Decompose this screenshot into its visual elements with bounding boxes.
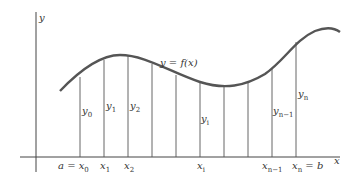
svg-text:x1: x1 xyxy=(100,160,110,174)
svg-text:xn = b: xn = b xyxy=(292,160,323,174)
svg-text:a = x0: a = x0 xyxy=(58,160,89,174)
svg-text:xi: xi xyxy=(197,160,206,174)
svg-text:y2: y2 xyxy=(129,100,140,114)
svg-text:y1: y1 xyxy=(105,100,116,114)
x-axis-label: x xyxy=(334,155,340,166)
svg-text:yn: yn xyxy=(297,88,309,102)
svg-text:xn−1: xn−1 xyxy=(262,160,282,174)
svg-text:yn−1: yn−1 xyxy=(272,105,293,119)
curve-f-of-x xyxy=(60,28,340,91)
svg-text:y0: y0 xyxy=(81,105,92,119)
svg-text:yi: yi xyxy=(200,113,210,127)
svg-text:x2: x2 xyxy=(124,160,134,174)
riemann-partition-diagram: y x y = f(x) y0 y1 y2 yi yn−1 yn a = x0 … xyxy=(0,0,353,180)
y-axis-label: y xyxy=(38,12,45,23)
curve-label: y = f(x) xyxy=(159,57,198,68)
ordinate-labels: y0 y1 y2 yi yn−1 yn xyxy=(81,88,309,127)
x-tick-labels: a = x0 x1 x2 xi xn−1 xn = b xyxy=(58,160,323,174)
